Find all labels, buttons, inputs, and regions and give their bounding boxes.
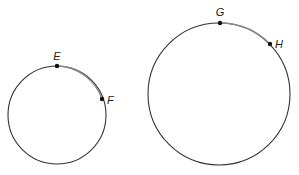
point-g	[218, 21, 222, 25]
point-e	[55, 64, 59, 68]
circles-diagram: E F G H	[0, 0, 299, 175]
label-h: H	[275, 38, 283, 50]
arc-gh	[220, 23, 270, 44]
point-h	[268, 42, 272, 46]
label-e: E	[53, 50, 61, 62]
label-f: F	[107, 94, 115, 106]
point-f	[100, 97, 104, 101]
large-circle-group: G H	[148, 6, 290, 165]
label-g: G	[216, 6, 225, 18]
small-circle-group: E F	[8, 50, 115, 164]
